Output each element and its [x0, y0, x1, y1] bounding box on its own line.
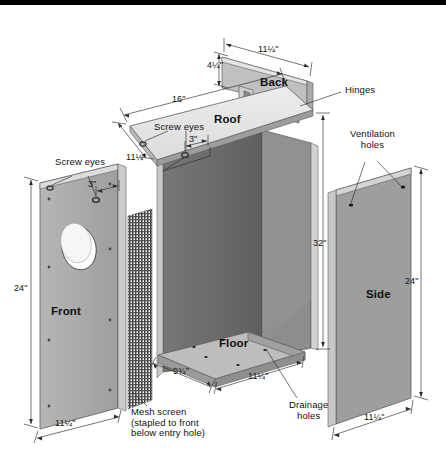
dim-roof-screw-spacing: 3" — [189, 134, 197, 144]
callout-mesh-screen: Mesh screen (stapled to front below entr… — [131, 407, 205, 439]
dim-floor-width: 11¼" — [248, 371, 268, 381]
ventilation-hole-2 — [401, 185, 405, 188]
dim-box-height: 32" — [313, 238, 327, 248]
part-label-back: Back — [260, 76, 288, 89]
dim-front-width: 11¼" — [55, 418, 75, 428]
screw-dot — [48, 405, 51, 408]
mesh-screen — [128, 209, 152, 409]
dim-side-width: 11¼" — [364, 412, 384, 422]
dim-back-height: 4¼" — [207, 60, 223, 70]
part-label-floor: Floor — [219, 337, 248, 350]
screw-dot — [109, 319, 112, 322]
screw-dot — [109, 183, 112, 186]
part-label-front: Front — [51, 305, 81, 318]
callout-ventilation-holes: Ventilation holes — [350, 129, 395, 150]
dim-roof-length: 16" — [172, 94, 186, 104]
front-panel — [40, 164, 126, 429]
dim-side-height: 24" — [405, 276, 419, 286]
drainage-hole-3 — [204, 356, 207, 358]
callout-screw-eyes-front: Screw eyes — [55, 157, 105, 168]
dim-floor-depth: 9¾" — [173, 366, 189, 376]
callout-drainage-holes: Drainage holes — [289, 400, 328, 421]
dim-front-height: 24" — [14, 283, 28, 293]
box-left-edge — [157, 158, 163, 378]
screw-dot — [48, 198, 51, 201]
part-label-roof: Roof — [214, 113, 241, 126]
drainage-hole-5 — [236, 364, 239, 366]
part-label-side: Side — [366, 288, 391, 301]
screw-dot — [109, 248, 112, 251]
callout-hinges: Hinges — [345, 85, 375, 96]
dim-back-width: 11¼" — [258, 44, 278, 54]
screw-dot — [48, 339, 51, 342]
dim-roof-depth: 11¼" — [126, 152, 146, 162]
drainage-hole-2 — [192, 346, 195, 348]
ventilation-hole-1 — [349, 203, 353, 206]
callout-screw-eyes-roof: Screw eyes — [154, 122, 204, 133]
diagram-canvas: Back Roof Front Side Floor Hinges Ventil… — [0, 0, 446, 465]
screw-dot — [48, 266, 51, 269]
dim-front-screw-spacing: 3" — [88, 179, 96, 189]
screw-dot — [109, 389, 112, 392]
